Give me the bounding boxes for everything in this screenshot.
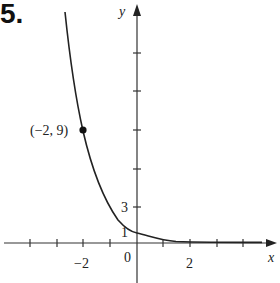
point-marker (79, 126, 86, 133)
exponential-graph: (−2, 9) y x −2 0 2 1 3 (0, 0, 280, 283)
y-axis-label: y (117, 4, 126, 19)
y-tick-label-three: 3 (121, 200, 128, 215)
x-axis-label: x (267, 250, 275, 265)
y-axis-arrow-icon (133, 4, 141, 16)
exponential-curve (65, 12, 262, 242)
x-tick-label-neg2: −2 (74, 256, 89, 271)
x-tick-label-zero: 0 (124, 250, 131, 265)
point-label: (−2, 9) (30, 123, 69, 139)
y-tick-label-one: 1 (121, 225, 128, 240)
x-axis-arrow-icon (266, 239, 277, 247)
x-tick-label-pos2: 2 (186, 256, 193, 271)
